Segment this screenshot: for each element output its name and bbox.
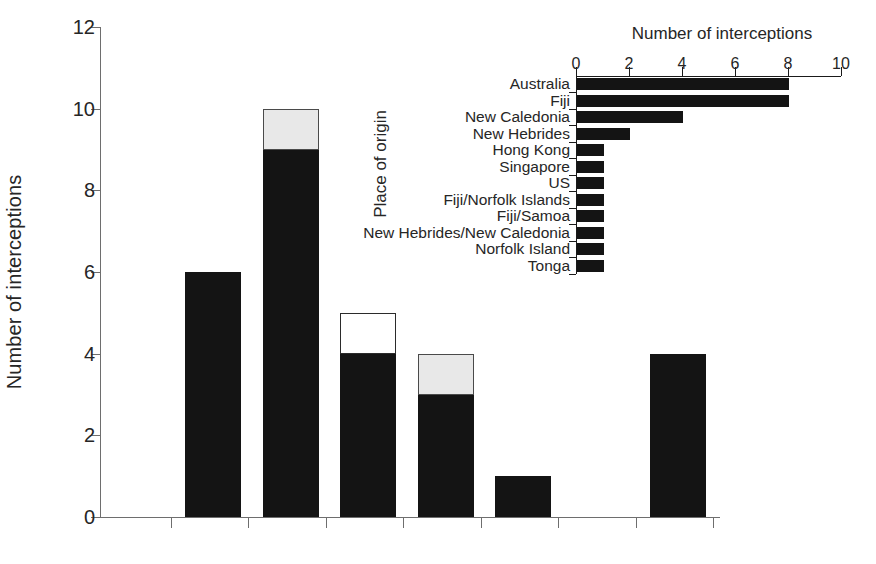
inset-bar bbox=[577, 95, 789, 107]
inset-category-label: Fiji/Samoa bbox=[497, 207, 570, 225]
main-y-axis-label: Number of interceptions bbox=[3, 175, 26, 390]
inset-category-label: Singapore bbox=[499, 158, 570, 176]
inset-y-tick-mark bbox=[569, 125, 576, 126]
bar-segment-black bbox=[418, 395, 474, 518]
inset-bar bbox=[577, 243, 604, 255]
inset-x-tick-label: 4 bbox=[678, 55, 687, 73]
inset-x-axis-line bbox=[576, 76, 841, 77]
y-tick-label: 8 bbox=[84, 179, 95, 202]
inset-y-tick-mark bbox=[569, 109, 576, 110]
y-tick-label: 0 bbox=[84, 506, 95, 529]
bar-segment-black bbox=[495, 476, 551, 517]
bar-segment-white bbox=[340, 313, 396, 354]
inset-bar bbox=[577, 194, 604, 206]
bar bbox=[263, 109, 319, 517]
y-tick-label: 2 bbox=[84, 424, 95, 447]
inset-y-tick-mark bbox=[569, 142, 576, 143]
main-y-axis-line bbox=[100, 27, 101, 517]
inset-x-tick-label: 10 bbox=[832, 55, 850, 73]
inset-bar bbox=[577, 128, 630, 140]
inset-bar bbox=[577, 78, 789, 90]
inset-y-tick-mark bbox=[569, 158, 576, 159]
x-tick-mark bbox=[248, 517, 249, 528]
inset-category-label: Australia bbox=[510, 75, 570, 93]
inset-category-label: Hong Kong bbox=[492, 141, 570, 159]
inset-x-tick-label: 2 bbox=[625, 55, 634, 73]
inset-bar bbox=[577, 227, 604, 239]
bar-segment-grey bbox=[418, 354, 474, 395]
bar bbox=[650, 354, 706, 517]
inset-bar bbox=[577, 210, 604, 222]
bar bbox=[185, 272, 241, 517]
bar bbox=[495, 476, 551, 517]
bar-segment-black bbox=[263, 150, 319, 518]
y-tick-label: 6 bbox=[84, 261, 95, 284]
x-tick-mark bbox=[558, 517, 559, 528]
inset-category-label: US bbox=[548, 174, 570, 192]
inset-category-label: Norfolk Island bbox=[475, 240, 570, 258]
y-tick-label: 4 bbox=[84, 342, 95, 365]
inset-y-axis-label: Place of origin bbox=[371, 110, 391, 218]
inset-bar bbox=[577, 144, 604, 156]
x-tick-mark bbox=[171, 517, 172, 528]
inset-category-label: Fiji bbox=[550, 92, 570, 110]
inset-bar bbox=[577, 177, 604, 189]
bar-segment-grey bbox=[263, 109, 319, 150]
x-tick-mark bbox=[403, 517, 404, 528]
inset-y-tick-mark bbox=[569, 92, 576, 93]
inset-x-tick-label: 8 bbox=[784, 55, 793, 73]
inset-y-tick-mark bbox=[569, 274, 576, 275]
x-tick-mark bbox=[713, 517, 714, 528]
inset-y-tick-mark bbox=[569, 175, 576, 176]
main-x-axis-line bbox=[100, 517, 720, 518]
bar bbox=[418, 354, 474, 517]
inset-bar bbox=[577, 161, 604, 173]
inset-bar-chart: Number of interceptions Place of origin … bbox=[372, 24, 872, 292]
bar bbox=[340, 313, 396, 517]
inset-category-label: Tonga bbox=[528, 257, 570, 275]
bar-segment-black bbox=[185, 272, 241, 517]
x-tick-mark bbox=[481, 517, 482, 528]
inset-category-label: New Hebrides/New Caledonia bbox=[363, 224, 570, 242]
inset-category-label: Fiji/Norfolk Islands bbox=[443, 191, 570, 209]
inset-x-tick-label: 0 bbox=[572, 55, 581, 73]
inset-y-tick-mark bbox=[569, 257, 576, 258]
inset-category-label: New Hebrides bbox=[473, 125, 570, 143]
x-tick-mark bbox=[326, 517, 327, 528]
x-tick-mark bbox=[636, 517, 637, 528]
bar-segment-black bbox=[340, 354, 396, 517]
inset-x-tick-label: 6 bbox=[731, 55, 740, 73]
y-tick-label: 12 bbox=[73, 16, 95, 39]
inset-plot-area: 0246810 AustraliaFijiNew CaledoniaNew He… bbox=[576, 76, 841, 274]
y-tick-label: 10 bbox=[73, 97, 95, 120]
inset-bar bbox=[577, 260, 604, 272]
figure-root: Number of interceptions 121086420 Number… bbox=[0, 0, 876, 564]
bar-segment-black bbox=[650, 354, 706, 517]
inset-x-axis-title: Number of interceptions bbox=[572, 24, 872, 44]
inset-bar bbox=[577, 111, 683, 123]
inset-category-label: New Caledonia bbox=[465, 108, 570, 126]
